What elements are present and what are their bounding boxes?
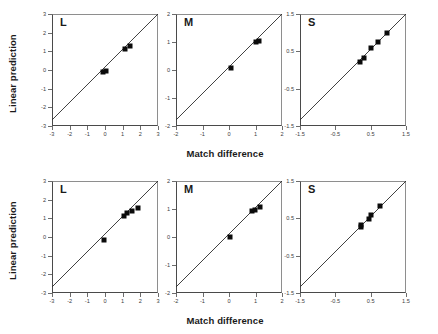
data-point xyxy=(366,217,371,222)
y-tick-label: -1 xyxy=(165,262,170,268)
data-point xyxy=(135,206,140,211)
x-tick-mark xyxy=(176,293,177,297)
identity-line xyxy=(300,14,406,120)
data-point xyxy=(369,212,374,217)
y-tick-label: 1 xyxy=(167,206,170,212)
data-point xyxy=(103,69,108,74)
x-tick-mark xyxy=(70,126,71,130)
y-axis-label: Linear prediction xyxy=(4,183,22,299)
x-tick-label: 3 xyxy=(156,298,159,304)
x-tick-label: 1 xyxy=(254,131,257,137)
y-tick-label: 2 xyxy=(43,197,46,203)
y-tick-mark xyxy=(48,33,52,34)
y-tick-mark xyxy=(48,274,52,275)
x-tick-mark xyxy=(52,126,53,130)
y-tick-mark xyxy=(172,42,176,43)
x-tick-mark xyxy=(335,293,336,297)
x-tick-mark xyxy=(406,126,407,130)
x-tick-mark xyxy=(87,293,88,297)
x-tick-label: -3 xyxy=(50,131,55,137)
x-tick-label: 2 xyxy=(280,298,283,304)
x-tick-mark xyxy=(123,126,124,130)
scatter-panel-m-top: M-2-1012-2-1012 xyxy=(176,14,282,126)
y-tick-label: -3 xyxy=(41,290,46,296)
data-point xyxy=(359,222,364,227)
x-axis-label: Match difference xyxy=(0,315,438,326)
y-tick-mark xyxy=(48,107,52,108)
y-tick-mark xyxy=(172,14,176,15)
y-tick-label: 2 xyxy=(43,30,46,36)
scatter-panel-l-top: L-3-2-10123-3-2-10123 xyxy=(52,14,158,126)
y-tick-mark xyxy=(172,98,176,99)
x-tick-label: -2 xyxy=(174,298,179,304)
y-tick-mark xyxy=(172,209,176,210)
y-tick-mark xyxy=(48,218,52,219)
x-tick-label: -1.5 xyxy=(295,298,305,304)
x-tick-label: 2 xyxy=(139,131,142,137)
y-tick-label: -2 xyxy=(41,271,46,277)
y-tick-label: 0 xyxy=(167,234,170,240)
x-tick-mark xyxy=(335,126,336,130)
x-tick-mark xyxy=(282,293,283,297)
x-tick-label: -1 xyxy=(200,131,205,137)
y-tick-mark xyxy=(172,70,176,71)
y-tick-mark xyxy=(296,14,300,15)
y-tick-label: 0 xyxy=(43,234,46,240)
y-tick-mark xyxy=(172,181,176,182)
y-tick-label: 2 xyxy=(167,11,170,17)
data-point xyxy=(229,66,234,71)
x-tick-label: 2 xyxy=(280,131,283,137)
x-tick-mark xyxy=(87,126,88,130)
data-point xyxy=(252,208,257,213)
y-tick-label: 3 xyxy=(43,178,46,184)
data-point xyxy=(129,208,134,213)
y-tick-mark xyxy=(48,200,52,201)
figure-row-bottom: Linear prediction Match difference L-3-2… xyxy=(0,167,438,334)
x-tick-mark xyxy=(140,293,141,297)
x-tick-label: -2 xyxy=(174,131,179,137)
y-tick-label: 0 xyxy=(43,67,46,73)
x-tick-label: 0.5 xyxy=(367,298,375,304)
x-tick-mark xyxy=(70,293,71,297)
data-point xyxy=(377,204,382,209)
y-tick-mark xyxy=(172,237,176,238)
y-tick-mark xyxy=(296,256,300,257)
x-tick-label: -1 xyxy=(85,131,90,137)
y-axis-label: Linear prediction xyxy=(4,16,22,132)
scatter-panel-s-bottom: S-1.5-0.50.51.5-1.5-0.50.51.5 xyxy=(300,181,406,293)
x-tick-mark xyxy=(176,126,177,130)
x-tick-label: -1 xyxy=(85,298,90,304)
data-point xyxy=(369,45,374,50)
y-tick-label: -2 xyxy=(165,123,170,129)
data-point xyxy=(127,43,132,48)
y-tick-label: -2 xyxy=(165,290,170,296)
x-tick-mark xyxy=(256,293,257,297)
y-tick-label: 1 xyxy=(167,39,170,45)
y-tick-label: 0.5 xyxy=(286,215,294,221)
y-tick-mark xyxy=(48,51,52,52)
x-tick-label: 1 xyxy=(121,131,124,137)
x-tick-label: -2 xyxy=(67,298,72,304)
identity-line xyxy=(52,181,158,287)
data-point xyxy=(376,40,381,45)
x-tick-mark xyxy=(105,126,106,130)
y-tick-label: -1 xyxy=(165,95,170,101)
scatter-panel-s-top: S-1.5-0.50.51.5-1.5-0.50.51.5 xyxy=(300,14,406,126)
x-tick-label: -0.5 xyxy=(331,298,341,304)
x-tick-mark xyxy=(158,126,159,130)
y-tick-label: 1.5 xyxy=(286,11,294,17)
y-tick-label: -0.5 xyxy=(284,253,294,259)
figure-panel-grid: Linear prediction Match difference L-3-2… xyxy=(0,0,438,334)
data-point xyxy=(384,30,389,35)
x-tick-label: -1 xyxy=(200,298,205,304)
y-tick-label: 1 xyxy=(43,48,46,54)
x-tick-mark xyxy=(105,293,106,297)
y-tick-label: -3 xyxy=(41,123,46,129)
x-tick-label: 0 xyxy=(227,298,230,304)
x-tick-mark xyxy=(282,126,283,130)
x-tick-label: 0 xyxy=(227,131,230,137)
y-tick-mark xyxy=(48,181,52,182)
y-tick-mark xyxy=(296,51,300,52)
y-tick-mark xyxy=(48,70,52,71)
scatter-panel-l-bottom: L-3-2-10123-3-2-10123 xyxy=(52,181,158,293)
